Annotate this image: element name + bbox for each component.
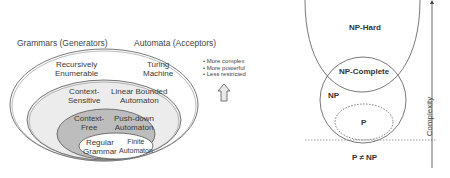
axis-arrowhead-icon — [430, 0, 434, 4]
grammar-label-recursively-enumerable: Recursively Enumerable — [55, 60, 98, 78]
np-hard-region — [305, 0, 420, 92]
grammars-header: Grammars (Generators) — [17, 38, 108, 48]
automaton-label-finite: Finite Automaton — [119, 137, 153, 155]
grammar-label-context-free: Context- Free — [74, 114, 104, 132]
np-complete-label: NP-Complete — [339, 67, 389, 76]
automaton-label-push-down: Push-down Automaton — [114, 114, 154, 132]
p-neq-np-caption: P ≠ NP — [352, 153, 377, 162]
automaton-label-turing-machine: Turing Machine — [143, 60, 173, 78]
grammar-label-context-sensitive: Context- Sensitive — [68, 87, 100, 105]
automaton-label-linear-bounded: Linear Bounded Automaton — [111, 87, 168, 105]
p-label: P — [361, 118, 366, 127]
legend-bullet: • Less restricted — [203, 71, 246, 78]
up-arrow-icon — [218, 84, 230, 101]
np-hard-label: NP-Hard — [349, 23, 381, 32]
np-label: NP — [328, 91, 339, 100]
legend-bullets: • More complex • More powerful • Less re… — [203, 58, 246, 78]
automata-header: Automata (Acceptors) — [134, 38, 216, 48]
grammar-label-regular: Regular Grammar — [83, 138, 117, 156]
complexity-axis-label: Complexity — [425, 87, 434, 147]
